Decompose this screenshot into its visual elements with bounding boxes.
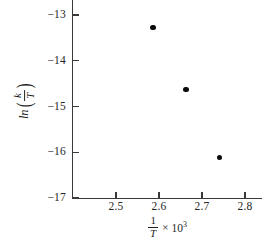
y-tick-label-wrap: −14 — [22, 54, 66, 68]
x-axis-title-fraction: 1 T — [148, 215, 158, 239]
x-tick-label: 2.5 — [96, 200, 136, 212]
y-tick-mark — [73, 152, 79, 153]
y-axis-line — [72, 0, 73, 199]
y-tick-label: −17 — [32, 191, 66, 203]
x-tick-mark — [158, 192, 159, 198]
x-tick-mark — [115, 192, 116, 198]
x-tick-label: 2.8 — [225, 200, 265, 212]
y-tick-mark — [73, 197, 79, 198]
x-axis-title-power-base: 10 — [171, 222, 183, 234]
y-tick-label-wrap: −13 — [22, 8, 66, 22]
y-axis-title-open-paren: ( — [14, 103, 34, 108]
y-axis-title-numerator: k — [12, 91, 24, 100]
x-axis-title-times-symbol: × — [162, 221, 168, 233]
data-point — [217, 155, 222, 160]
x-axis-line — [72, 198, 262, 199]
x-axis-title-power-exponent: 3 — [183, 220, 187, 229]
y-tick-label: −16 — [32, 145, 66, 157]
y-axis-title-function: ln — [16, 109, 31, 119]
y-axis-title: ln ( k T ) — [0, 72, 56, 130]
x-axis-title-power: 103 — [171, 220, 187, 234]
x-axis-title: 1 T × 103 — [72, 215, 262, 239]
y-axis-title-fraction: k T — [12, 91, 36, 101]
y-tick-label: −14 — [32, 54, 66, 66]
x-tick-label: 2.6 — [139, 200, 179, 212]
x-tick-label: 2.7 — [182, 200, 222, 212]
y-tick-label-wrap: −17 — [22, 191, 66, 205]
y-axis-title-denominator: T — [24, 91, 36, 101]
x-tick-mark — [201, 192, 202, 198]
y-tick-mark — [73, 60, 79, 61]
y-tick-label: −13 — [32, 8, 66, 20]
scatter-plot-figure: −13−14−15−16−17 2.52.62.72.8 ln ( k T ) … — [0, 0, 271, 252]
x-axis-title-numerator: 1 — [148, 215, 158, 227]
y-tick-mark — [73, 14, 79, 15]
data-point — [150, 25, 155, 30]
y-tick-label-wrap: −16 — [22, 145, 66, 159]
x-tick-mark — [244, 192, 245, 198]
y-tick-mark — [73, 106, 79, 107]
x-axis-title-denominator: T — [148, 228, 158, 240]
y-axis-title-close-paren: ) — [14, 84, 34, 89]
data-point — [183, 87, 188, 92]
